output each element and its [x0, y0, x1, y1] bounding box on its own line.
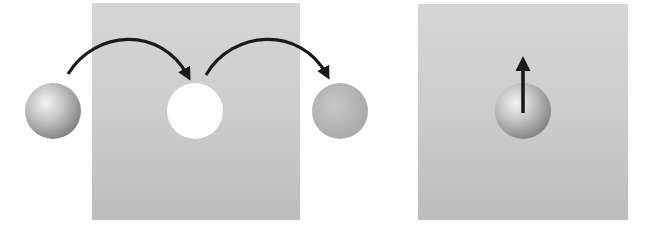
right-panel: [418, 4, 628, 220]
incoming-particle-sphere: [25, 83, 81, 139]
vacancy-hole: [167, 83, 223, 139]
outgoing-particle-sphere: [312, 83, 368, 139]
diagram-canvas: [0, 0, 661, 233]
left-panel: [25, 3, 368, 220]
